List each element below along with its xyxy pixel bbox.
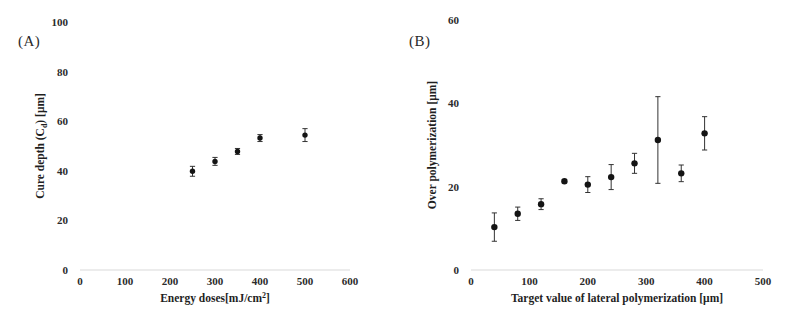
data-marker [538,201,544,207]
data-marker [257,135,262,140]
y-tick-label: 80 [57,66,69,78]
data-point-group [561,178,567,184]
x-tick-label: 600 [342,275,359,287]
data-point-group [655,97,661,184]
y-tick-label: 0 [454,264,460,276]
data-marker [608,174,614,180]
x-tick-label: 400 [696,275,713,287]
data-point-group [190,166,195,176]
data-marker [561,178,567,184]
x-tick-label: 500 [297,275,314,287]
plot-a-scatter: 0100200300400500600020406080100Energy do… [0,0,404,323]
data-point-group [212,157,217,165]
data-point-group [701,117,707,150]
data-marker [491,224,497,230]
x-tick-label: 300 [207,275,224,287]
y-tick-label: 20 [57,214,69,226]
y-tick-label: 60 [57,115,69,127]
panel-b: (B) 01002003004005000204060Target value … [404,0,807,323]
data-marker [235,149,240,154]
data-point-group [608,165,614,190]
data-point-group [257,135,262,142]
x-tick-label: 0 [77,275,83,287]
data-marker [585,181,591,187]
y-tick-label: 20 [448,181,460,193]
data-point-group [302,129,307,142]
x-tick-label: 500 [755,275,772,287]
data-marker [190,169,195,174]
y-tick-label: 0 [63,264,69,276]
x-tick-label: 400 [252,275,269,287]
data-point-group [235,148,240,154]
x-tick-label: 200 [580,275,597,287]
data-marker [212,159,217,164]
data-marker [302,132,307,137]
y-tick-label: 100 [52,16,69,28]
y-tick-label: 40 [448,97,460,109]
data-point-group [491,213,497,241]
data-point-group [538,199,544,210]
data-point-group [678,165,684,182]
x-tick-label: 300 [638,275,655,287]
x-tick-label: 100 [521,275,538,287]
panel-a: (A) 0100200300400500600020406080100Energ… [0,0,404,323]
x-tick-label: 100 [117,275,134,287]
x-tick-label: 200 [162,275,179,287]
x-axis-title: Energy doses[mJ/cm2] [160,291,270,305]
y-tick-label: 40 [57,165,69,177]
x-tick-label: 0 [468,275,474,287]
data-point-group [631,153,637,173]
data-marker [515,211,521,217]
data-point-group [515,207,521,220]
data-marker [631,160,637,166]
plot-b-scatter: 01002003004005000204060Target value of l… [404,0,807,323]
data-marker [701,130,707,136]
figure-container: (A) 0100200300400500600020406080100Energ… [0,0,807,323]
x-axis-title: Target value of lateral polymerization [… [511,292,723,305]
data-marker [678,170,684,176]
y-tick-label: 60 [448,14,460,26]
data-point-group [585,177,591,193]
data-marker [655,137,661,143]
y-axis-title: Over polymerization [μm] [426,81,439,209]
y-axis-title: Cure depth (Cd) [μm] [34,93,49,199]
